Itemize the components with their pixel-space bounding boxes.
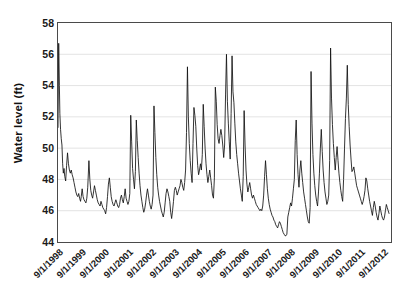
y-tick-label: 58 [30, 18, 54, 29]
plot-area [57, 22, 392, 243]
y-tick-label: 50 [30, 143, 54, 154]
plot-svg [58, 23, 391, 242]
x-tick-label: 9/1/2006 [159, 247, 251, 303]
x-tick-label: 9/1/2005 [136, 247, 228, 303]
y-tick-label: 52 [30, 111, 54, 122]
x-tick-label: 9/1/2002 [66, 247, 158, 303]
x-tick-label: 9/1/2001 [43, 247, 135, 303]
y-axis-tick-labels: 5856545250484644 [28, 0, 54, 303]
water-level-chart-figure: Water level (ft) 5856545250484644 9/1/19… [0, 0, 408, 303]
x-tick-label: 9/1/2012 [298, 247, 390, 303]
y-axis-title-label: Water level (ft) [12, 82, 24, 162]
x-tick-label: 9/1/2011 [275, 247, 367, 303]
y-tick-label: 56 [30, 49, 54, 60]
x-tick-label: 9/1/2009 [229, 247, 321, 303]
y-tick-label: 44 [30, 237, 54, 248]
x-tick-label: 9/1/2010 [252, 247, 344, 303]
water-level-line [58, 43, 389, 235]
x-tick-label: 9/1/2008 [205, 247, 297, 303]
y-tick-label: 46 [30, 205, 54, 216]
x-tick-label: 9/1/2004 [112, 247, 204, 303]
y-tick-label: 48 [30, 174, 54, 185]
x-tick-label: 9/1/2003 [89, 247, 181, 303]
x-tick-label: 9/1/2007 [182, 247, 274, 303]
y-tick-label: 54 [30, 80, 54, 91]
